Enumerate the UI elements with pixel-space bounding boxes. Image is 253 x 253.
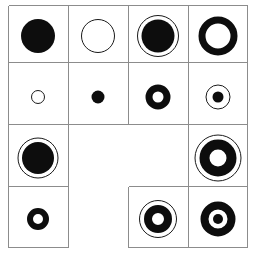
glyph-thick-annulus-small <box>128 66 188 127</box>
filled-disc-shape <box>22 142 54 174</box>
center-dot-shape <box>213 91 224 102</box>
thick-annulus-shape <box>27 208 49 230</box>
grid-cell-r2c3 <box>188 127 248 188</box>
glyph-filled-disc-large <box>8 5 68 66</box>
thin-outline-ring-shape <box>81 19 115 53</box>
glyph-thick-annulus-small <box>8 188 68 249</box>
grid-cell-r1c2 <box>128 66 188 127</box>
grid-cell-r1c1 <box>68 66 128 127</box>
thick-annulus-shape <box>146 84 171 109</box>
thick-annulus-shape <box>199 16 238 55</box>
grid-cell-r3c0 <box>8 188 68 249</box>
grid-cell-r3c2 <box>128 188 188 249</box>
center-dot-shape <box>213 214 223 224</box>
glyph-thin-outline-circle-small <box>8 66 68 127</box>
glyph-bullseye-ring-with-center-dot <box>188 188 248 249</box>
grid-cell-r0c1 <box>68 5 128 66</box>
glyph-thick-annulus-with-outer-ring-large <box>188 127 248 188</box>
thin-outline-ring-shape <box>31 90 45 104</box>
grid-cell-r0c2 <box>128 5 188 66</box>
grid-cell-r0c3 <box>188 5 248 66</box>
filled-disc-shape <box>142 19 175 52</box>
filled-disc-shape <box>92 90 105 103</box>
glyph-thin-outline-circle-large <box>68 5 128 66</box>
thick-annulus-shape <box>200 139 237 176</box>
grid-cell-r1c0 <box>8 66 68 127</box>
grid-cell-r2c0 <box>8 127 68 188</box>
glyph-filled-disc-with-outer-ring <box>128 5 188 66</box>
glyph-filled-disc-with-outer-ring <box>8 127 68 188</box>
glyph-filled-dot-small <box>68 66 128 127</box>
thick-annulus-shape <box>144 205 172 233</box>
circle-grid-figure <box>0 0 253 253</box>
filled-disc-shape <box>21 19 55 53</box>
grid-cell-r0c0 <box>8 5 68 66</box>
glyph-thick-annulus-with-outer-ring <box>128 188 188 249</box>
grid-cell-r3c3 <box>188 188 248 249</box>
glyph-dot-with-outer-ring <box>188 66 248 127</box>
grid-cell-r1c3 <box>188 66 248 127</box>
glyph-thick-annulus-large <box>188 5 248 66</box>
